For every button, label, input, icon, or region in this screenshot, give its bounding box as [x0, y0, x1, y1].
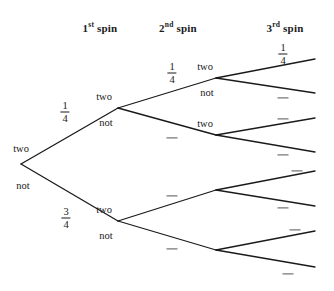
- fraction-label-b-ttt: 14: [278, 43, 287, 66]
- blank-fraction-line-b-ttn: [278, 97, 289, 98]
- fraction-label-b-n: 34: [61, 207, 70, 230]
- node-label-n-tt-above: two: [197, 61, 213, 72]
- blank-fraction-line-b-nt: [167, 195, 178, 196]
- blank-answer-bar: [278, 154, 289, 155]
- node-label-n-n-below: not: [99, 230, 112, 241]
- node-label-n-t-below: not: [99, 117, 112, 128]
- blank-fraction-line-b-nnt: [290, 229, 301, 230]
- blank-answer-bar: [292, 170, 303, 171]
- fraction-numerator: 1: [278, 43, 287, 54]
- blank-fraction-line-b-tnt: [278, 118, 289, 119]
- fraction-label-b-tt: 14: [167, 62, 176, 85]
- fraction-numerator: 1: [167, 62, 176, 73]
- blank-answer-bar: [278, 118, 289, 119]
- header-word: spin: [174, 22, 197, 34]
- blank-fraction-line-b-ntt: [292, 170, 303, 171]
- branch-line: [216, 118, 315, 135]
- node-label-n-t-above: two: [96, 91, 112, 102]
- branch-line: [216, 190, 315, 206]
- column-header-3: 3rd spin: [267, 22, 304, 34]
- blank-fraction-line-b-tn: [167, 137, 178, 138]
- branch-line: [216, 250, 315, 267]
- fraction-denominator: 4: [167, 74, 176, 85]
- probability-tree-diagram: 1st spin2nd spin3rd spin twonottwonottwo…: [0, 0, 334, 291]
- blank-answer-bar: [278, 207, 289, 208]
- node-label-n-tn-above: two: [197, 118, 213, 129]
- column-header-1: 1st spin: [83, 22, 118, 34]
- branch-line: [216, 231, 315, 250]
- node-label-root-above: two: [13, 143, 29, 154]
- fraction-numerator: 1: [60, 101, 69, 112]
- header-word: spin: [280, 22, 303, 34]
- branch-line: [216, 59, 315, 78]
- blank-answer-bar: [278, 97, 289, 98]
- blank-answer-bar: [283, 273, 294, 274]
- branch-line: [118, 221, 216, 250]
- column-header-2: 2nd spin: [159, 22, 197, 34]
- branch-line: [216, 135, 315, 152]
- blank-fraction-line-b-tnn: [278, 154, 289, 155]
- header-word: spin: [94, 22, 117, 34]
- blank-fraction-line-b-nn: [167, 248, 178, 249]
- blank-answer-bar: [167, 137, 178, 138]
- fraction-denominator: 4: [60, 113, 69, 124]
- header-ordinal-suffix: rd: [272, 20, 280, 29]
- fraction-denominator: 4: [61, 219, 70, 230]
- branch-line: [216, 171, 315, 190]
- fraction-label-b-t: 14: [60, 101, 69, 124]
- blank-answer-bar: [167, 195, 178, 196]
- node-label-root-below: not: [16, 180, 29, 191]
- fraction-denominator: 4: [278, 55, 287, 66]
- blank-answer-bar: [290, 229, 301, 230]
- blank-fraction-line-b-ntn: [278, 207, 289, 208]
- node-label-n-n-above: two: [96, 204, 112, 215]
- node-label-n-tt-below: not: [200, 87, 213, 98]
- blank-answer-bar: [167, 248, 178, 249]
- branch-line: [216, 78, 315, 93]
- branch-line-group: [21, 59, 315, 267]
- blank-fraction-line-b-nnn: [283, 273, 294, 274]
- fraction-numerator: 3: [61, 207, 70, 218]
